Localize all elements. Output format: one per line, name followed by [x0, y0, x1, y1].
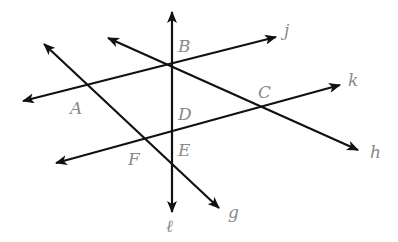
labels-group: ℓjhgkABCDEF	[68, 20, 381, 236]
point-label-b: B	[177, 36, 191, 56]
line-label-j: j	[280, 20, 290, 40]
line-h	[108, 38, 358, 150]
point-label-e: E	[177, 140, 191, 160]
point-label-d: D	[177, 104, 192, 124]
line-label-g: g	[228, 202, 239, 222]
diagram-svg: ℓjhgkABCDEF	[0, 0, 398, 242]
line-label-k: k	[348, 70, 358, 90]
line-j	[23, 37, 276, 101]
point-label-f: F	[127, 149, 141, 169]
point-label-c: C	[258, 82, 271, 102]
line-label-l: ℓ	[166, 216, 173, 236]
geometry-diagram: ℓjhgkABCDEF	[0, 0, 398, 242]
line-label-h: h	[370, 142, 381, 162]
point-label-a: A	[68, 98, 82, 118]
